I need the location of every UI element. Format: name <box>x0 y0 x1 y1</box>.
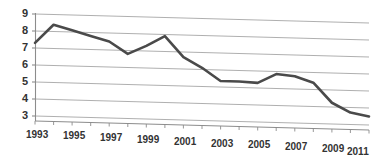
y-axis-label-7: 7 <box>14 42 28 53</box>
y-axis-label-9: 9 <box>14 8 28 19</box>
x-axis-label-2011: 2011 <box>347 147 369 157</box>
gridline-3 <box>35 116 369 125</box>
x-axis-label-1999: 1999 <box>137 135 159 145</box>
y-axis-label-3: 3 <box>14 110 28 121</box>
x-axis-label-2009: 2009 <box>322 144 344 154</box>
x-axis-label-2005: 2005 <box>248 140 270 150</box>
y-axis-label-6: 6 <box>14 59 28 70</box>
x-axis-label-2001: 2001 <box>174 137 196 147</box>
y-axis <box>32 13 36 121</box>
y-axis-label-4: 4 <box>14 93 28 104</box>
x-axis-label-1995: 1995 <box>63 131 85 141</box>
gridline-7 <box>35 48 369 57</box>
y-axis-label-5: 5 <box>14 76 28 87</box>
y-axis-label-8: 8 <box>14 25 28 36</box>
gridline-9 <box>35 14 369 23</box>
x-axis-label-1993: 1993 <box>26 130 48 140</box>
line-chart: 9 8 7 6 5 4 3 1993 1995 1997 1999 2001 2… <box>0 0 377 159</box>
gridline-4 <box>35 99 369 108</box>
x-axis-label-2007: 2007 <box>285 142 307 152</box>
x-axis-label-2003: 2003 <box>211 139 233 149</box>
x-axis-label-1997: 1997 <box>100 133 122 143</box>
gridlines <box>35 14 369 125</box>
